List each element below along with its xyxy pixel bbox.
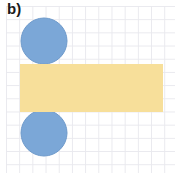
horizontal-bar: [20, 64, 163, 112]
top-circle: [21, 18, 67, 64]
figure-panel-b: b): [0, 0, 175, 173]
panel-label: b): [7, 1, 21, 18]
shapes-layer: [0, 0, 175, 173]
bottom-circle: [21, 110, 67, 156]
